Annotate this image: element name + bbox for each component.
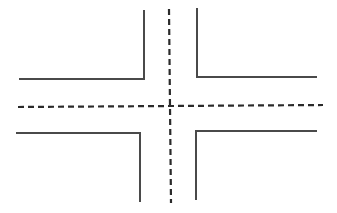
diagram-canvas xyxy=(0,0,337,213)
curb-top-left xyxy=(19,10,144,79)
curb-top-right xyxy=(197,8,317,77)
intersection-diagram xyxy=(0,0,337,213)
centerline-horizontal xyxy=(18,105,323,107)
curb-bottom-right xyxy=(196,131,317,200)
curb-bottom-left xyxy=(16,133,140,202)
